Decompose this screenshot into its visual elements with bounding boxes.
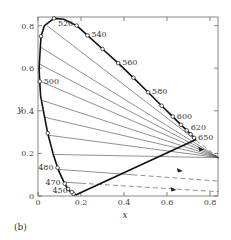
wavelength-label: 600 <box>177 112 192 121</box>
wavelength-label: 520 <box>58 19 73 28</box>
x-tick-label: 0.4 <box>118 198 131 207</box>
chromaticity-chart: 00.20.40.60.800.20.40.60.8 4504704805005… <box>0 0 231 240</box>
wavelength-label: 450 <box>52 186 67 195</box>
wavelength-marker <box>46 131 50 135</box>
wavelength-marker <box>75 24 79 28</box>
wavelength-label: 620 <box>191 123 206 132</box>
y-tick-label: 0.8 <box>21 22 34 31</box>
wavelength-marker <box>70 190 74 194</box>
x-axis-label: x <box>122 210 127 220</box>
wavelength-marker <box>179 123 183 127</box>
wavelength-marker <box>86 34 90 38</box>
wavelength-label: 560 <box>122 58 137 67</box>
wavelength-label: 500 <box>44 77 59 86</box>
wavelength-marker <box>116 61 120 65</box>
wavelength-marker <box>101 47 105 51</box>
wavelength-marker <box>56 166 60 170</box>
wavelength-label: 480 <box>38 163 53 172</box>
plot-frame <box>38 17 218 196</box>
y-tick-label: 0.4 <box>21 107 34 116</box>
wavelength-marker <box>63 182 67 186</box>
y-tick-label: 0.2 <box>21 149 34 158</box>
wavelength-marker <box>146 90 150 94</box>
wavelength-label: 470 <box>45 178 60 187</box>
wavelength-label: 650 <box>198 133 213 142</box>
projection-lines <box>39 26 218 192</box>
y-axis-label: y <box>16 104 23 114</box>
purple-line <box>76 140 196 195</box>
y-tick-label: 0.6 <box>21 64 34 73</box>
x-tick-label: 0.6 <box>161 198 174 207</box>
wavelength-markers: 450470480500520540560580600620650 <box>38 17 213 196</box>
wavelength-marker <box>132 76 136 80</box>
wavelength-marker <box>185 129 189 133</box>
wavelength-marker <box>171 115 175 119</box>
wavelength-marker <box>160 104 164 108</box>
x-tick-label: 0.2 <box>75 198 88 207</box>
x-tick-label: 0.8 <box>204 198 217 207</box>
wavelength-label: 580 <box>152 87 167 96</box>
wavelength-marker <box>192 136 196 140</box>
y-tick-label: 0 <box>29 192 34 201</box>
wavelength-marker <box>39 34 43 38</box>
x-tick-label: 0 <box>35 198 40 207</box>
panel-label: (b) <box>14 222 27 232</box>
wavelength-marker <box>52 17 56 21</box>
wavelength-marker <box>38 80 42 84</box>
wavelength-label: 540 <box>91 30 106 39</box>
spectral-locus <box>39 18 196 195</box>
wavelength-marker <box>189 132 193 136</box>
spectral-locus <box>39 18 196 195</box>
